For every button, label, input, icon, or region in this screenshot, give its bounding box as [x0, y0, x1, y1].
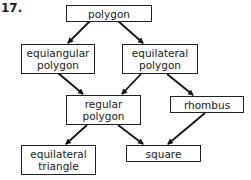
node-equilateral-triangle: equilateral triangle — [21, 145, 96, 175]
arrow-equilateral-to-regular — [122, 74, 141, 94]
arrow-equilateral-to-rhombus — [167, 74, 193, 95]
node-polygon: polygon — [66, 5, 152, 22]
arrow-polygon-to-equiangular — [68, 21, 90, 43]
arrow-rhombus-to-square — [168, 113, 205, 144]
arrow-equiangular-to-regular — [58, 73, 83, 94]
arrow-regular-to-square — [118, 125, 143, 144]
arrow-polygon-to-equilateral — [118, 21, 143, 43]
node-rhombus: rhombus — [170, 96, 244, 113]
node-square: square — [126, 145, 201, 162]
node-equiangular-polygon: equiangular polygon — [21, 44, 95, 74]
arrow-regular-to-triangle — [66, 125, 87, 144]
node-equilateral-polygon: equilateral polygon — [122, 44, 198, 74]
node-regular-polygon: regular polygon — [66, 95, 141, 125]
